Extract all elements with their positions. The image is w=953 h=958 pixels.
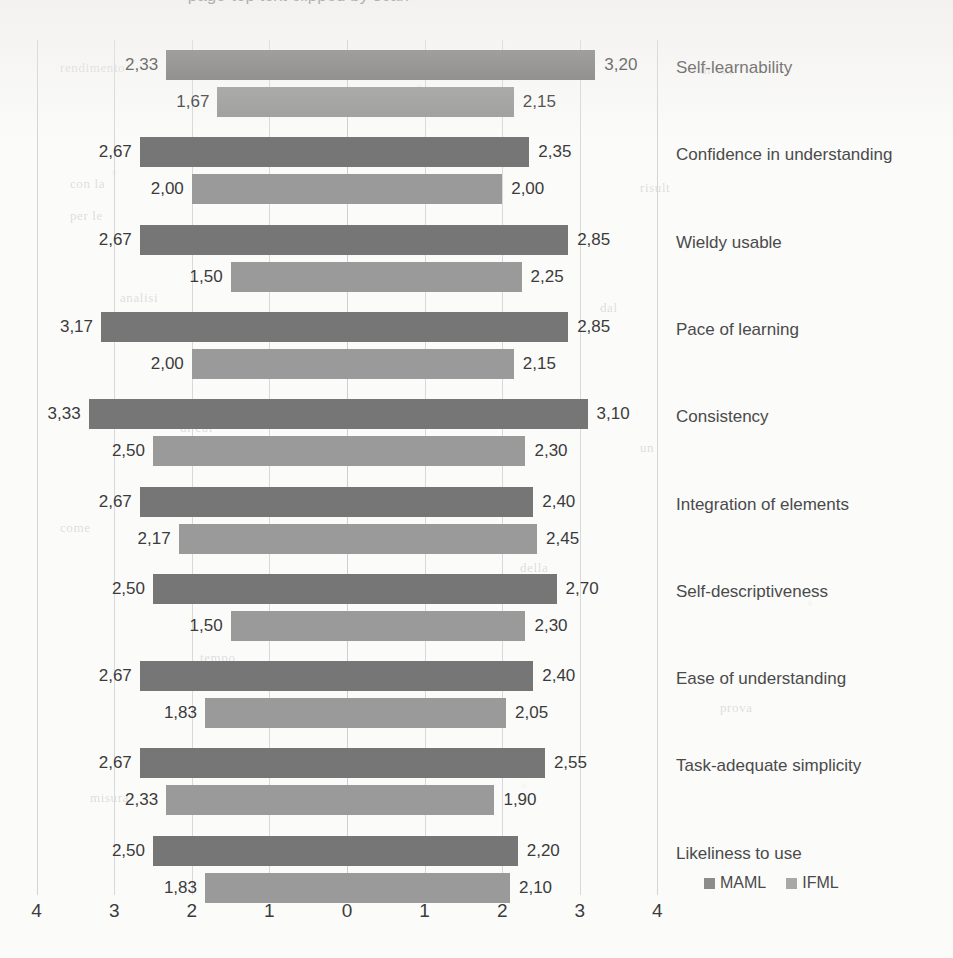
bar-row: 3,172,852,002,15 [27, 312, 668, 379]
value-label-left-ifml: 1,83 [119, 698, 197, 728]
value-label-left-maml: 2,50 [67, 574, 145, 604]
value-label-left-maml: 2,67 [54, 748, 132, 778]
bar-ifml[interactable] [153, 436, 525, 466]
bar-maml[interactable] [153, 836, 518, 866]
value-label-left-ifml: 1,50 [145, 611, 223, 641]
bar-maml[interactable] [140, 487, 533, 517]
value-label-right-ifml: 2,10 [519, 873, 597, 903]
category-label: Self-learnability [676, 58, 792, 78]
bar-ifml[interactable] [205, 698, 506, 728]
value-label-right-ifml: 2,15 [523, 87, 601, 117]
x-tick-label: 0 [342, 900, 353, 922]
bar-row: 2,672,851,502,25 [27, 225, 668, 292]
value-label-right-maml: 2,40 [542, 487, 620, 517]
value-label-left-ifml: 1,67 [131, 87, 209, 117]
bar-ifml[interactable] [231, 611, 526, 641]
x-tick-label: 1 [419, 900, 430, 922]
value-label-right-maml: 2,20 [527, 836, 605, 866]
bar-row: 2,672,401,832,05 [27, 661, 668, 728]
bar-maml[interactable] [153, 574, 557, 604]
bar-row: 2,502,701,502,30 [27, 574, 668, 641]
value-label-left-maml: 2,50 [67, 836, 145, 866]
value-label-right-maml: 3,20 [604, 50, 682, 80]
category-label: Integration of elements [676, 495, 849, 515]
legend-entry-maml[interactable]: MAML [704, 874, 766, 892]
category-label: Confidence in understanding [676, 145, 892, 165]
bar-ifml[interactable] [192, 349, 514, 379]
bar-maml[interactable] [101, 312, 568, 342]
value-label-left-maml: 2,33 [80, 50, 158, 80]
value-label-left-ifml: 2,33 [80, 785, 158, 815]
value-label-right-ifml: 2,15 [523, 349, 601, 379]
bar-maml[interactable] [89, 399, 588, 429]
bar-row: 2,672,402,172,45 [27, 487, 668, 554]
category-label: Pace of learning [676, 320, 799, 340]
category-label: Ease of understanding [676, 669, 846, 689]
value-label-left-ifml: 2,17 [93, 524, 171, 554]
bar-maml[interactable] [140, 661, 533, 691]
x-tick-label: 4 [31, 900, 42, 922]
legend-entry-ifml[interactable]: IFML [786, 874, 838, 892]
value-label-left-maml: 3,17 [15, 312, 93, 342]
bar-ifml[interactable] [192, 174, 502, 204]
bar-rows: 2,333,201,672,152,672,352,002,002,672,85… [27, 40, 668, 895]
value-label-right-ifml: 2,05 [515, 698, 593, 728]
bar-row: 2,502,201,832,10 [27, 836, 668, 903]
category-label: Consistency [676, 407, 769, 427]
x-tick-label: 3 [575, 900, 586, 922]
bar-ifml[interactable] [179, 524, 538, 554]
value-label-right-maml: 2,85 [577, 225, 655, 255]
value-label-right-ifml: 2,30 [534, 611, 612, 641]
x-tick-label: 1 [264, 900, 275, 922]
value-label-left-maml: 2,67 [54, 487, 132, 517]
value-label-right-ifml: 2,45 [546, 524, 624, 554]
bar-maml[interactable] [140, 748, 545, 778]
category-label: Wieldy usable [676, 233, 782, 253]
chart-legend: MAML IFML [704, 874, 839, 892]
value-label-right-ifml: 1,90 [503, 785, 581, 815]
value-label-right-maml: 3,10 [597, 399, 675, 429]
value-label-left-ifml: 1,50 [145, 262, 223, 292]
bar-row: 3,333,102,502,30 [27, 399, 668, 466]
x-tick-label: 4 [652, 900, 663, 922]
value-label-left-ifml: 2,50 [67, 436, 145, 466]
value-label-right-maml: 2,40 [542, 661, 620, 691]
plot-area: 2,333,201,672,152,672,352,002,002,672,85… [27, 40, 668, 895]
legend-label-maml: MAML [720, 874, 766, 892]
value-label-right-maml: 2,85 [577, 312, 655, 342]
x-axis-tick-labels: 432101234 [0, 900, 953, 934]
bar-ifml[interactable] [166, 785, 494, 815]
value-label-left-ifml: 2,00 [106, 349, 184, 379]
bar-maml[interactable] [166, 50, 595, 80]
value-label-left-maml: 3,33 [3, 399, 81, 429]
legend-swatch-ifml-icon [786, 878, 797, 889]
x-tick-label: 2 [187, 900, 198, 922]
value-label-left-ifml: 2,00 [106, 174, 184, 204]
value-label-left-maml: 2,67 [54, 225, 132, 255]
diverging-bar-chart: 2,333,201,672,152,672,352,002,002,672,85… [0, 0, 953, 958]
category-label: Self-descriptiveness [676, 582, 828, 602]
value-label-left-ifml: 1,83 [119, 873, 197, 903]
value-label-left-maml: 2,67 [54, 661, 132, 691]
value-label-right-maml: 2,55 [554, 748, 632, 778]
bar-row: 2,672,552,331,90 [27, 748, 668, 815]
bar-ifml[interactable] [217, 87, 513, 117]
value-label-right-ifml: 2,30 [534, 436, 612, 466]
value-label-right-maml: 2,35 [538, 137, 616, 167]
bar-row: 2,672,352,002,00 [27, 137, 668, 204]
x-tick-label: 2 [497, 900, 508, 922]
legend-label-ifml: IFML [802, 874, 838, 892]
category-label: Likeliness to use [676, 844, 802, 864]
value-label-right-ifml: 2,00 [511, 174, 589, 204]
bar-maml[interactable] [140, 225, 568, 255]
category-label: Task-adequate simplicity [676, 756, 861, 776]
bar-row: 2,333,201,672,15 [27, 50, 668, 117]
bar-maml[interactable] [140, 137, 530, 167]
bar-ifml[interactable] [205, 873, 510, 903]
value-label-right-maml: 2,70 [566, 574, 644, 604]
x-tick-label: 3 [109, 900, 120, 922]
bar-ifml[interactable] [231, 262, 522, 292]
value-label-right-ifml: 2,25 [531, 262, 609, 292]
value-label-left-maml: 2,67 [54, 137, 132, 167]
legend-swatch-maml-icon [704, 878, 715, 889]
